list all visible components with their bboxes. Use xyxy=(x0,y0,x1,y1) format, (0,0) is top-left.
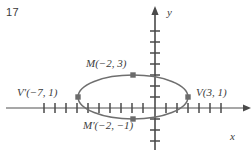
label-point-V-prime: V′(−7, 1) xyxy=(17,86,57,98)
label-point-M: M(−2, 3) xyxy=(86,57,126,69)
point-V-prime-marker xyxy=(75,94,80,99)
ellipse-curve xyxy=(78,75,188,119)
label-point-V: V(3, 1) xyxy=(196,86,227,98)
coordinate-plane-svg xyxy=(0,0,251,159)
point-V-marker xyxy=(185,94,190,99)
x-axis-label: x xyxy=(230,130,235,142)
y-axis-label: y xyxy=(167,6,172,18)
label-point-M-prime: M′(−2, −1) xyxy=(83,119,133,131)
point-M-marker xyxy=(130,72,135,77)
x-axis-arrow xyxy=(243,104,251,111)
problem-number: 17 xyxy=(6,6,19,18)
ellipse-figure: 17 xyxy=(0,0,251,159)
y-axis-arrow xyxy=(151,6,158,15)
